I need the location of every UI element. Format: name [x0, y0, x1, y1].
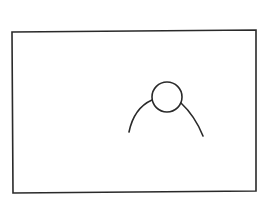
head-circle — [152, 82, 182, 112]
right-shoulder-arc — [181, 103, 203, 136]
person-icon — [129, 82, 203, 136]
drawing-svg — [0, 0, 259, 197]
picture-frame — [12, 30, 256, 193]
left-shoulder-arc — [129, 100, 152, 132]
line-drawing — [0, 0, 259, 197]
